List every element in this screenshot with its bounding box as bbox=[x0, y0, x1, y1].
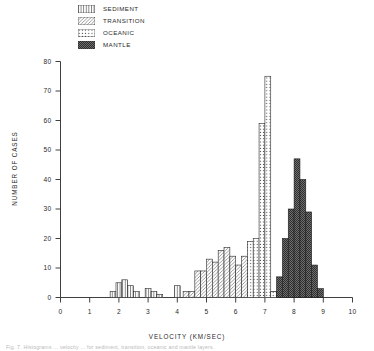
mantle-swatch-icon bbox=[78, 41, 95, 49]
histogram-series bbox=[277, 159, 324, 298]
histogram-bar bbox=[195, 271, 201, 298]
x-tick-label: 7 bbox=[263, 308, 267, 315]
y-tick-label: 40 bbox=[44, 176, 52, 183]
histogram-bar bbox=[183, 292, 189, 298]
histogram-bar bbox=[236, 265, 242, 297]
x-tick-label: 4 bbox=[175, 308, 179, 315]
x-tick-label: 8 bbox=[292, 308, 296, 315]
histogram-bar bbox=[247, 241, 253, 297]
histogram-bar bbox=[230, 256, 236, 297]
histogram-bar bbox=[157, 295, 163, 298]
x-tick-label: 2 bbox=[117, 308, 121, 315]
histogram-bar bbox=[151, 292, 157, 298]
histogram-bar bbox=[116, 283, 122, 298]
histogram-bar bbox=[189, 292, 195, 298]
histogram-bar bbox=[253, 239, 259, 298]
legend-item: SEDIMENT bbox=[78, 3, 208, 14]
legend-item: TRANSITION bbox=[78, 15, 208, 26]
y-tick-label: 60 bbox=[44, 117, 52, 124]
histogram-bar bbox=[294, 159, 300, 298]
x-tick-label: 6 bbox=[234, 308, 238, 315]
histogram-bar bbox=[218, 250, 224, 297]
y-tick-label: 30 bbox=[44, 205, 52, 212]
y-tick-label: 70 bbox=[44, 87, 52, 94]
histogram-bar bbox=[110, 292, 116, 298]
legend-item: OCEANIC bbox=[78, 27, 208, 38]
histogram-bar bbox=[134, 292, 140, 298]
figure-caption: Fig. 7. Histograms ... velocity ... for … bbox=[6, 344, 368, 350]
x-tick-label: 0 bbox=[59, 308, 63, 315]
legend-item-label: SEDIMENT bbox=[103, 5, 139, 13]
histogram-bar bbox=[265, 76, 271, 297]
oceanic-swatch-icon bbox=[78, 29, 95, 37]
bars-layer bbox=[110, 76, 323, 297]
histogram-plot: 01234567891001020304050607080 bbox=[0, 0, 374, 351]
histogram-series bbox=[110, 280, 180, 298]
figure-container: SEDIMENT TRANSITION OCEANIC MANTLE bbox=[0, 0, 374, 351]
histogram-series bbox=[247, 76, 276, 297]
histogram-bar bbox=[312, 265, 318, 297]
histogram-bar bbox=[201, 271, 207, 298]
chart-legend: SEDIMENT TRANSITION OCEANIC MANTLE bbox=[78, 3, 208, 51]
histogram-bar bbox=[306, 212, 312, 298]
histogram-bar bbox=[212, 262, 218, 297]
y-tick-label: 50 bbox=[44, 146, 52, 153]
histogram-bar bbox=[282, 239, 288, 298]
histogram-bar bbox=[259, 123, 265, 297]
y-tick-label: 10 bbox=[44, 264, 52, 271]
legend-item-label: OCEANIC bbox=[103, 29, 134, 37]
legend-item-label: MANTLE bbox=[103, 41, 131, 49]
histogram-bar bbox=[174, 286, 180, 298]
x-tick-label: 3 bbox=[146, 308, 150, 315]
legend-item: MANTLE bbox=[78, 39, 208, 50]
histogram-bar bbox=[122, 280, 128, 298]
histogram-bar bbox=[224, 247, 230, 297]
x-tick-label: 10 bbox=[349, 308, 357, 315]
x-axis-title: VELOCITY (KM/SEC) bbox=[0, 333, 374, 340]
histogram-bar bbox=[277, 277, 283, 298]
x-tick-label: 1 bbox=[88, 308, 92, 315]
x-tick-label: 5 bbox=[205, 308, 209, 315]
histogram-bar bbox=[242, 256, 248, 297]
y-tick-label: 0 bbox=[48, 294, 52, 301]
y-tick-label: 20 bbox=[44, 235, 52, 242]
histogram-bar bbox=[145, 289, 151, 298]
histogram-bar bbox=[317, 289, 323, 298]
x-tick-label: 9 bbox=[321, 308, 325, 315]
legend-item-label: TRANSITION bbox=[103, 17, 145, 25]
histogram-bar bbox=[271, 292, 277, 298]
histogram-bar bbox=[300, 180, 306, 298]
histogram-bar bbox=[288, 209, 294, 298]
y-axis-title: NUMBER OF CASES bbox=[11, 124, 18, 214]
histogram-bar bbox=[207, 259, 213, 297]
histogram-bar bbox=[128, 286, 134, 298]
sediment-swatch-icon bbox=[78, 5, 95, 13]
y-tick-label: 80 bbox=[44, 58, 52, 65]
transition-swatch-icon bbox=[78, 17, 95, 25]
